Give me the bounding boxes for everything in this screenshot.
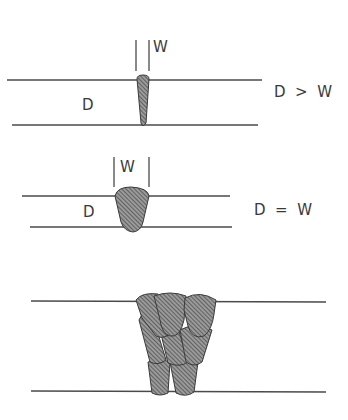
depth-label-panel-2: D [83, 205, 95, 220]
width-label-panel-1: W [153, 40, 168, 55]
weld-bead-wide [115, 187, 149, 232]
weld-bead-narrow [137, 75, 149, 126]
depth-label-panel-1: D [82, 98, 94, 113]
relation-label-panel-2: D = W [254, 203, 312, 218]
relation-label-panel-1: D > W [274, 85, 332, 100]
weld-beads-multi [136, 293, 216, 395]
panel-deep-narrow [7, 40, 262, 126]
width-label-panel-2: W [120, 160, 135, 175]
panel-multi-pass [31, 293, 326, 395]
